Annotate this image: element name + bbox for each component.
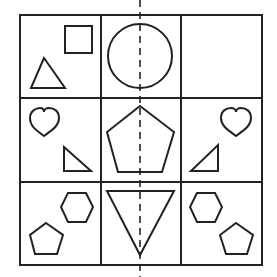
right-triangle-icon — [64, 147, 91, 171]
hexagon-icon — [190, 193, 222, 222]
pentagon-icon — [220, 223, 253, 254]
pentagon-icon — [30, 223, 63, 254]
hexagon-icon — [61, 193, 93, 222]
grid-frame — [20, 15, 262, 265]
puzzle-figure — [0, 0, 277, 277]
square-icon — [65, 26, 92, 53]
grid-diagram — [0, 0, 277, 277]
triangle-icon — [31, 58, 65, 88]
heart-icon — [221, 108, 251, 136]
right-triangle-icon — [191, 145, 218, 171]
heart-icon — [30, 108, 59, 136]
